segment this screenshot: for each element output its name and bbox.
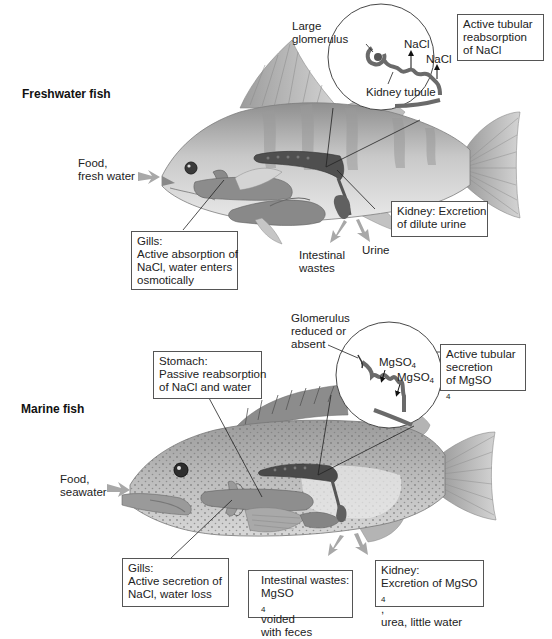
box-line: with feces <box>261 626 347 639</box>
freshwater-intestinal-wastes-label: Intestinal wastes <box>299 249 345 275</box>
freshwater-title: Freshwater fish <box>22 87 111 101</box>
box-line: Active tubular <box>463 18 538 31</box>
box-line: of NaCl <box>463 44 538 57</box>
inset-nacl-label-1: NaCl <box>404 38 430 51</box>
marine-title: Marine fish <box>21 402 84 416</box>
formula: Excretion of MgSO <box>381 577 478 590</box>
box-line: Passive reabsorption <box>159 368 256 381</box>
marine-stomach-box: Stomach: Passive reabsorption of NaCl an… <box>153 351 262 399</box>
box-line: Intestinal wastes: <box>261 574 347 587</box>
food-label-line: seawater <box>60 486 107 499</box>
box-line: reabsorption <box>463 31 538 44</box>
box-line: urea, little water <box>381 616 478 629</box>
marine-kidney-box: Kidney: Excretion of MgSO4, urea, little… <box>375 560 484 607</box>
box-line: of MgSO4 <box>446 374 520 400</box>
text: , <box>381 603 478 616</box>
box-line: Gills: <box>137 235 232 248</box>
kidney-tubule-label: Kidney tubule <box>366 86 436 99</box>
box-line: secretion <box>446 361 520 374</box>
box-line: Gills: <box>128 562 223 575</box>
food-label-line: Food, <box>60 473 107 486</box>
formula: MgSO <box>261 587 347 600</box>
subscript: 4 <box>446 392 450 401</box>
marine-tubular-secretion-box: Active tubular secretion of MgSO4 <box>440 344 526 391</box>
box-line: of NaCl and water <box>159 381 256 394</box>
box-line: Active secretion of <box>128 575 223 588</box>
freshwater-urine-label: Urine <box>362 244 389 257</box>
marine-glomerulus-label: Glomerulus reduced or absent <box>291 312 350 351</box>
freshwater-food-label: Food, fresh water <box>78 157 135 183</box>
inset-mgso4-label-2: MgSO4 <box>397 371 434 384</box>
marine-intestinal-wastes-box: Intestinal wastes: MgSO4 voided with fec… <box>248 570 353 618</box>
text: voided <box>261 613 347 626</box>
box-line: Stomach: <box>159 355 256 368</box>
freshwater-kidney-box: Kidney: Excretion of dilute urine <box>391 201 488 237</box>
marine-gills-box: Gills: Active secretion of NaCl, water l… <box>122 558 229 607</box>
box-line: Active absorption of <box>137 248 232 261</box>
freshwater-glomerulus-label: Large glomerulus <box>292 20 348 46</box>
glomerulus-label-line: reduced or <box>291 325 350 338</box>
box-line: Active tubular <box>446 348 520 361</box>
glomerulus-label-line: absent <box>291 338 350 351</box>
inset-mgso4-label-1: MgSO4 <box>379 356 416 369</box>
glomerulus-label-line: Glomerulus <box>291 312 350 325</box>
label-line: Intestinal <box>299 249 345 262</box>
box-line: of dilute urine <box>397 218 482 231</box>
marine-food-label: Food, seawater <box>60 473 107 499</box>
marine-fish-illustration <box>122 385 496 542</box>
glomerulus-label-line: glomerulus <box>292 33 348 46</box>
formula: of MgSO <box>446 374 520 387</box>
glomerulus-label-line: Large <box>292 20 348 33</box>
box-line: NaCl, water loss <box>128 588 223 601</box>
subscript: 4 <box>430 376 434 385</box>
label-line: wastes <box>299 262 345 275</box>
box-line: NaCl, water enters <box>137 261 232 274</box>
food-label-line: Food, <box>78 157 135 170</box>
food-label-line: fresh water <box>78 170 135 183</box>
formula: MgSO <box>397 371 430 383</box>
freshwater-tubular-reabsorption-box: Active tubular reabsorption of NaCl <box>457 14 544 61</box>
inset-nacl-label-2: NaCl <box>426 53 452 66</box>
box-line: osmotically <box>137 274 232 287</box>
subscript: 4 <box>412 361 416 370</box>
freshwater-gills-box: Gills: Active absorption of NaCl, water … <box>131 231 238 290</box>
formula: MgSO <box>379 356 412 368</box>
box-line: MgSO4 voided <box>261 587 347 626</box>
box-line: Excretion of MgSO4, <box>381 577 478 616</box>
box-line: Kidney: <box>381 564 478 577</box>
box-line: Kidney: Excretion <box>397 205 482 218</box>
